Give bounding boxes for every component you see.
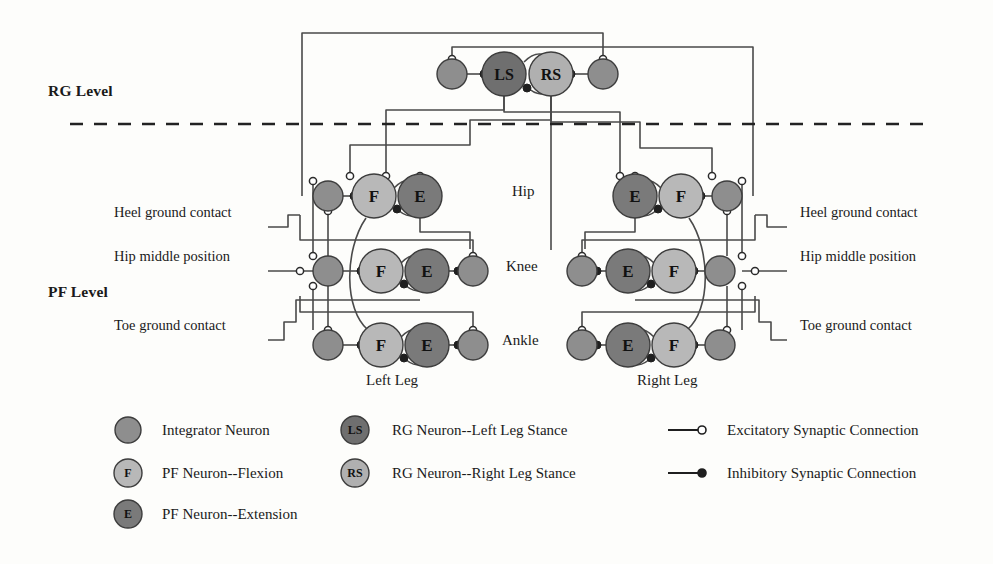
leg-left-ankle-extension-neuron[interactable]: E <box>405 323 449 367</box>
leg-right-knee-extension-neuron-glyph: E <box>622 262 633 281</box>
neuron-layer: LSRSEFEFEFEFEFEF <box>313 52 742 367</box>
wire-left-heel-in <box>268 215 300 227</box>
legend-label-pf-flexion: PF Neuron--Flexion <box>162 465 284 481</box>
leg-left-hip-flexion-neuron[interactable]: F <box>352 174 396 218</box>
rg-neuron-ls[interactable]: LS <box>482 52 526 96</box>
legend-symbol-glyph-pf-extension: E <box>124 507 132 521</box>
excitatory-terminal <box>309 282 316 289</box>
legend-item-integrator <box>115 417 141 443</box>
leg-right-ankle-extension-neuron-glyph: E <box>622 336 633 355</box>
leg-left-ankle-flexion-neuron[interactable]: F <box>359 323 403 367</box>
pf-level-label: PF Level <box>48 283 108 301</box>
wire-ls-down-left <box>386 96 504 176</box>
diagram-text-layer: Left LegRight LegHipKneeAnkleHeel ground… <box>114 183 918 388</box>
legend-item-pf-flexion: F <box>114 459 142 487</box>
leg-right-knee-flexion-neuron[interactable]: F <box>652 249 696 293</box>
leg-left-knee-integrator-in[interactable] <box>313 256 343 286</box>
leg-left-ankle-flexion-neuron-glyph: F <box>376 336 386 355</box>
sensory-label-right-hip-mid: Hip middle position <box>800 248 917 264</box>
sensory-label-right-heel: Heel ground contact <box>800 204 918 220</box>
sensory-label-left-heel: Heel ground contact <box>114 204 232 220</box>
leg-right-ankle-extension-neuron[interactable]: E <box>606 323 650 367</box>
leg-label-right: Right Leg <box>637 372 698 388</box>
wire-right-heel-in <box>755 215 787 227</box>
leg-right-knee-flexion-neuron-glyph: F <box>669 262 679 281</box>
leg-left-hip-extension-neuron-glyph: E <box>414 187 425 206</box>
integrator-neuron-rg-int-left[interactable] <box>437 59 467 89</box>
joint-label-knee: Knee <box>506 258 538 274</box>
excitatory-terminal <box>708 172 715 179</box>
legend: Integrator NeuronFPF Neuron--FlexionEPF … <box>114 416 919 528</box>
leg-right-ankle-integrator-out[interactable] <box>567 330 597 360</box>
diagram-canvas: LSRSEFEFEFEFEFEF Left LegRight LegHipKne… <box>0 0 993 564</box>
legend-label-pf-extension: PF Neuron--Extension <box>162 506 298 522</box>
excitatory-terminal <box>738 252 745 259</box>
leg-right-ankle-integrator-in[interactable] <box>705 330 735 360</box>
legend-label-rg-right: RG Neuron--Right Leg Stance <box>392 465 576 481</box>
wire-rs-branch-right <box>551 96 712 176</box>
sensory-label-left-hip-mid: Hip middle position <box>114 248 231 264</box>
legend-item-inhibitory <box>668 469 706 477</box>
leg-left-hip-flexion-neuron-glyph: F <box>369 187 379 206</box>
rg-neuron-rs-glyph: RS <box>541 66 562 83</box>
wire-rs-branch-left <box>350 96 551 176</box>
leg-left-ankle-extension-neuron-glyph: E <box>421 336 432 355</box>
leg-left-knee-flexion-neuron-glyph: F <box>376 262 386 281</box>
excitatory-terminal <box>751 267 758 274</box>
legend-item-rg-left: LS <box>341 416 369 444</box>
leg-right-hip-extension-neuron-glyph: E <box>629 187 640 206</box>
leg-right-knee-integrator-out[interactable] <box>567 256 597 286</box>
leg-left-ankle-integrator-out[interactable] <box>458 330 488 360</box>
leg-right-ankle-flexion-neuron[interactable]: F <box>652 323 696 367</box>
legend-symbol-glyph-rg-right: RS <box>347 466 363 480</box>
wire-right-hip-e-down <box>585 218 635 249</box>
excitatory-terminal <box>296 267 303 274</box>
legend-label-integrator: Integrator Neuron <box>162 422 270 438</box>
wire-ls-down-right <box>504 96 620 176</box>
sensory-label-right-toe: Toe ground contact <box>800 317 912 333</box>
legend-item-pf-extension: E <box>114 500 142 528</box>
legend-label-inhibitory: Inhibitory Synaptic Connection <box>727 465 917 481</box>
sensory-label-left-toe: Toe ground contact <box>114 317 226 333</box>
excitatory-terminal <box>738 177 745 184</box>
legend-item-rg-right: RS <box>341 459 369 487</box>
leg-right-hip-integrator-in[interactable] <box>712 181 742 211</box>
rg-neuron-rs[interactable]: RS <box>529 52 573 96</box>
rg-neuron-ls-glyph: LS <box>494 66 514 83</box>
leg-left-knee-flexion-neuron[interactable]: F <box>359 249 403 293</box>
legend-symbol-glyph-rg-left: LS <box>348 423 363 437</box>
leg-left-hip-integrator-in[interactable] <box>313 181 343 211</box>
leg-left-knee-extension-neuron-glyph: E <box>421 262 432 281</box>
leg-right-hip-extension-neuron[interactable]: E <box>613 174 657 218</box>
leg-right-hip-flexion-neuron-glyph: F <box>676 187 686 206</box>
excitatory-terminal <box>346 172 353 179</box>
leg-left-hip-extension-neuron[interactable]: E <box>398 174 442 218</box>
rg-level-label: RG Level <box>48 82 113 100</box>
joint-label-hip: Hip <box>512 183 535 199</box>
leg-label-left: Left Leg <box>366 372 419 388</box>
leg-right-ankle-flexion-neuron-glyph: F <box>669 336 679 355</box>
leg-right-knee-integrator-in[interactable] <box>705 256 735 286</box>
legend-label-excitatory: Excitatory Synaptic Connection <box>727 422 919 438</box>
legend-item-excitatory <box>668 426 706 434</box>
inhibitory-terminal <box>523 84 531 92</box>
leg-right-hip-flexion-neuron[interactable]: F <box>659 174 703 218</box>
joint-label-ankle: Ankle <box>502 332 539 348</box>
excitatory-terminal <box>738 282 745 289</box>
legend-label-rg-left: RG Neuron--Left Leg Stance <box>392 422 568 438</box>
excitatory-terminal <box>309 252 316 259</box>
leg-right-knee-extension-neuron[interactable]: E <box>606 249 650 293</box>
legend-symbol-glyph-pf-flexion: F <box>124 466 131 480</box>
cpg-network-diagram: LSRSEFEFEFEFEFEF Left LegRight LegHipKne… <box>0 0 993 564</box>
integrator-neuron-rg-int-right[interactable] <box>588 59 618 89</box>
leg-left-ankle-integrator-in[interactable] <box>313 330 343 360</box>
wire-left-hip-e-down <box>420 218 470 249</box>
leg-left-knee-extension-neuron[interactable]: E <box>405 249 449 293</box>
excitatory-terminal <box>309 177 316 184</box>
leg-left-knee-integrator-out[interactable] <box>458 256 488 286</box>
